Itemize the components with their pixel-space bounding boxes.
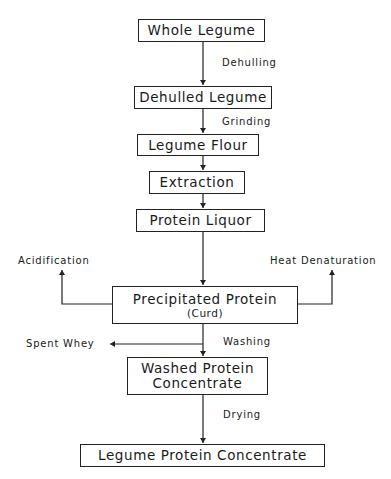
edge-label-dehulling: Dehulling	[222, 57, 277, 69]
node-label: Dehulled Legume	[139, 90, 267, 105]
node-legume-flour: Legume Flour	[137, 134, 259, 156]
arrow-heat-denaturation	[298, 270, 332, 304]
node-label: Protein Liquor	[149, 213, 251, 228]
output-spent-whey: Spent Whey	[26, 338, 95, 350]
node-label: Legume Flour	[148, 138, 248, 153]
node-whole-legume: Whole Legume	[138, 19, 265, 42]
node-label: Whole Legume	[148, 23, 256, 38]
node-dehulled-legume: Dehulled Legume	[134, 86, 272, 109]
connector-lines	[0, 0, 391, 479]
node-label: Precipitated Protein	[133, 292, 277, 307]
node-label-line2: Concentrate	[153, 376, 243, 391]
arrow-acidification	[62, 270, 112, 304]
node-label: Extraction	[160, 175, 235, 190]
output-heat-denaturation: Heat Denaturation	[270, 255, 376, 267]
edge-label-drying: Drying	[223, 409, 261, 421]
node-precipitated-protein: Precipitated Protein (Curd)	[112, 286, 298, 324]
edge-label-washing: Washing	[223, 336, 271, 348]
node-washed-protein-concentrate: Washed Protein Concentrate	[127, 357, 268, 395]
node-label-line1: Washed Protein	[141, 361, 254, 376]
output-acidification: Acidification	[18, 255, 90, 267]
node-protein-liquor: Protein Liquor	[136, 209, 265, 232]
node-label: Legume Protein Concentrate	[98, 448, 307, 463]
node-extraction: Extraction	[149, 171, 245, 194]
node-legume-protein-concentrate: Legume Protein Concentrate	[80, 444, 325, 467]
edge-label-grinding: Grinding	[222, 116, 271, 128]
node-sublabel: (Curd)	[187, 307, 223, 319]
